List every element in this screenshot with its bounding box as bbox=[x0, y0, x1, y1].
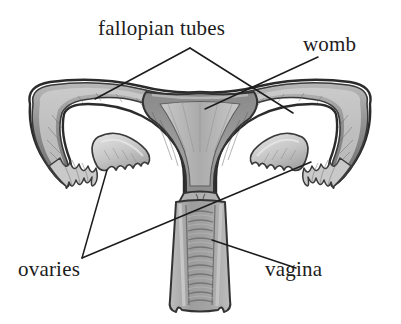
right-ovary bbox=[250, 133, 308, 170]
left-ovary bbox=[92, 133, 150, 170]
anatomical-diagram: fallopian tubes womb ovaries vagina bbox=[0, 0, 401, 324]
label-ovaries: ovaries bbox=[18, 259, 80, 280]
left-fimbriae bbox=[49, 158, 97, 188]
uterus-body bbox=[143, 92, 257, 200]
label-vagina: vagina bbox=[265, 259, 322, 280]
label-fallopian-tubes: fallopian tubes bbox=[98, 18, 225, 39]
label-womb: womb bbox=[303, 34, 356, 55]
